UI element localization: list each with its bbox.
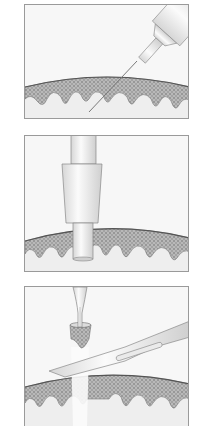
punch-biopsy-illustration [25,136,189,272]
panel-punch-biopsy [24,135,189,272]
excision-illustration [25,287,189,426]
panel-excision [24,286,189,426]
injection-illustration [25,5,189,119]
panel-injection [24,4,189,119]
